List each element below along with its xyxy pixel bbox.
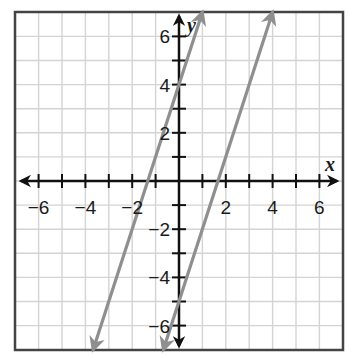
- x-tick-label: 2: [221, 197, 232, 218]
- y-tick-label: −2: [148, 219, 170, 240]
- x-tick-label: 4: [267, 197, 278, 218]
- tick-labels: −6−4−2246−6−4−2246xy: [28, 14, 335, 337]
- y-tick-label: 4: [159, 75, 170, 96]
- x-tick-label: −2: [121, 197, 143, 218]
- y-tick-label: −6: [148, 316, 170, 337]
- x-tick-label: 6: [314, 197, 325, 218]
- y-tick-label: 6: [159, 26, 170, 47]
- x-axis-label: x: [324, 153, 335, 175]
- y-tick-label: −4: [148, 267, 170, 288]
- x-tick-label: −6: [28, 197, 50, 218]
- coordinate-plane: −6−4−2246−6−4−2246xy: [0, 0, 348, 355]
- y-axis-label: y: [185, 14, 196, 37]
- y-tick-label: 2: [159, 123, 170, 144]
- x-tick-label: −4: [75, 197, 97, 218]
